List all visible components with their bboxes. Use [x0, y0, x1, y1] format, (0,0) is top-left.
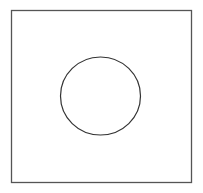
diagram-canvas — [0, 0, 203, 193]
circle-outline — [61, 57, 141, 135]
square-outline — [12, 11, 192, 183]
